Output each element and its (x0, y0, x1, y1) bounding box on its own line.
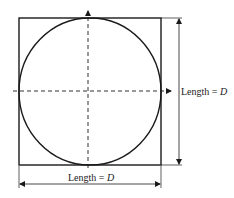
inscribed-circle (19, 18, 161, 165)
height-dimension-label: Length = D (181, 86, 228, 97)
height-label-var: D (219, 86, 228, 97)
width-label-prefix: Length = (68, 172, 107, 183)
circle-in-square-diagram: Length = D Length = D (0, 0, 234, 198)
width-label-var: D (106, 172, 115, 183)
height-label-prefix: Length = (181, 86, 220, 97)
square (19, 18, 161, 165)
width-dimension-label: Length = D (68, 172, 115, 183)
